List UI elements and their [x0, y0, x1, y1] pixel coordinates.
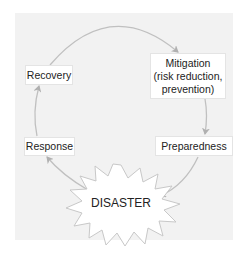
stage-label: Response — [26, 140, 73, 153]
stage-label-line: (risk reduction, — [154, 70, 223, 83]
stage-label-line: Mitigation — [166, 57, 211, 70]
stage-label: Preparedness — [161, 140, 226, 153]
stage-response: Response — [24, 137, 75, 156]
cycle-arrows — [0, 0, 244, 257]
arrow-response-to-recovery — [35, 86, 39, 136]
stage-label-line: prevention) — [162, 83, 215, 96]
arrow-mitigation-to-preparedness — [205, 99, 207, 134]
stage-mitigation: Mitigation (risk reduction, prevention) — [150, 53, 226, 99]
stage-recovery: Recovery — [25, 65, 73, 85]
stage-disaster: DISASTER — [85, 196, 157, 210]
stage-preparedness: Preparedness — [155, 136, 233, 156]
arrow-disaster-to-response — [47, 157, 88, 190]
stage-label: Recovery — [27, 69, 71, 82]
